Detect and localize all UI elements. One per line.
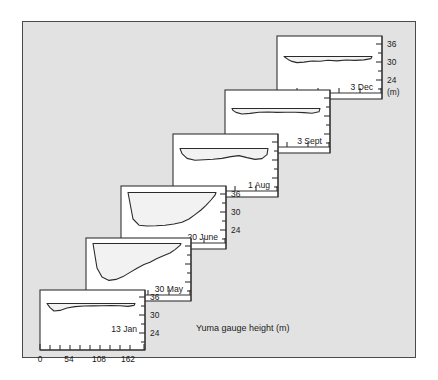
x-tick-54: 54	[64, 354, 74, 364]
y-tick-36-3-dec: 36	[387, 39, 397, 49]
panel-label-3-dec: 3 Dec	[351, 82, 374, 92]
x-tick-108: 108	[92, 354, 106, 364]
y-unit-label: (m)	[387, 87, 400, 97]
y-tick-36-13-jan: 36	[150, 292, 160, 302]
panel-label-1-aug: 1 Aug	[248, 180, 270, 190]
y-tick-24-3-dec: 24	[387, 75, 397, 85]
y-tick-24-13-jan: 24	[150, 328, 160, 338]
panel-13-jan: 36 30 24 13 Jan 0 54 108	[38, 290, 160, 364]
cross-section-diagram: 36 30 24 (m) 3 Dec	[0, 0, 438, 380]
panel-label-13-jan: 13 Jan	[111, 324, 137, 334]
x-tick-0: 0	[38, 354, 43, 364]
y-tick-36-20-june: 36	[231, 189, 241, 199]
y-tick-24-20-june: 24	[231, 225, 241, 235]
y-tick-30-13-jan: 30	[150, 310, 160, 320]
x-tick-162: 162	[121, 354, 135, 364]
panel-box-13-jan	[40, 290, 145, 350]
y-tick-30-20-june: 30	[231, 207, 241, 217]
figure-root: 36 30 24 (m) 3 Dec	[0, 0, 438, 380]
figure-caption: Yuma gauge height (m)	[196, 323, 290, 333]
panel-label-20-june: 20 June	[187, 232, 218, 242]
y-tick-30-3-dec: 30	[387, 57, 397, 67]
panel-label-3-sept: 3 Sept	[297, 136, 322, 146]
profile-1-aug	[180, 149, 268, 161]
